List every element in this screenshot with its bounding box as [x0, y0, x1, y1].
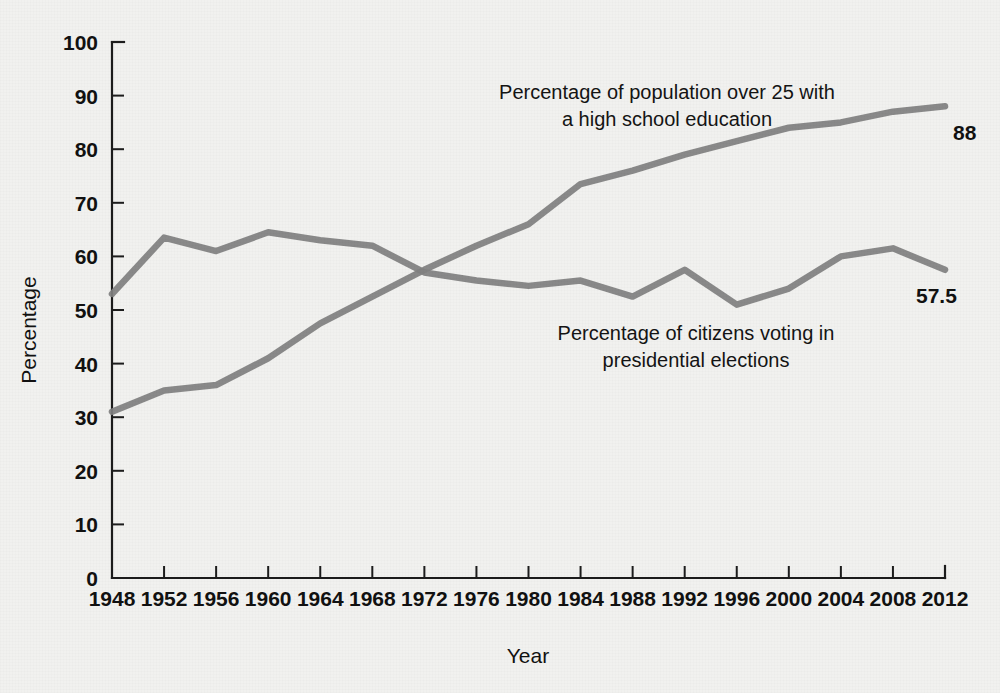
line-chart: 0102030405060708090100 19481952195619601… — [0, 0, 1000, 693]
y-axis-tick-labels: 0102030405060708090100 — [63, 31, 98, 590]
x-tick-label-1968: 1968 — [349, 587, 396, 610]
chart-page: 0102030405060708090100 19481952195619601… — [0, 0, 1000, 693]
voting-line — [112, 232, 945, 304]
data-series-group — [112, 106, 945, 412]
x-tick-label-2000: 2000 — [765, 587, 812, 610]
y-tick-label-90: 90 — [75, 85, 98, 108]
y-tick-label-80: 80 — [75, 138, 98, 161]
x-tick-label-1976: 1976 — [453, 587, 500, 610]
education-annotation: Percentage of population over 25 with a … — [499, 81, 835, 130]
education-annotation-line2: a high school education — [562, 108, 772, 130]
x-tick-label-1984: 1984 — [557, 587, 604, 610]
voting-annotation-line1: Percentage of citizens voting in — [558, 322, 835, 344]
y-axis-ticks — [112, 42, 124, 578]
x-axis-ticks — [164, 566, 945, 578]
x-tick-label-1964: 1964 — [297, 587, 344, 610]
y-tick-label-50: 50 — [75, 299, 98, 322]
x-tick-label-1956: 1956 — [193, 587, 240, 610]
y-axis-title: Percentage — [17, 276, 40, 383]
x-axis-title: Year — [507, 644, 549, 667]
x-tick-label-1992: 1992 — [661, 587, 708, 610]
education-line — [112, 106, 945, 412]
x-tick-label-2004: 2004 — [818, 587, 865, 610]
x-tick-label-1988: 1988 — [609, 587, 656, 610]
x-tick-label-2012: 2012 — [922, 587, 969, 610]
x-tick-label-1972: 1972 — [401, 587, 448, 610]
voting-endpoint-label: 57.5 — [916, 284, 957, 307]
y-tick-label-30: 30 — [75, 406, 98, 429]
y-tick-label-100: 100 — [63, 31, 98, 54]
voting-annotation: Percentage of citizens voting in preside… — [558, 322, 835, 371]
x-axis-tick-labels: 1948195219561960196419681972197619801984… — [89, 587, 969, 610]
x-tick-label-1960: 1960 — [245, 587, 292, 610]
y-tick-label-40: 40 — [75, 353, 98, 376]
x-tick-label-1948: 1948 — [89, 587, 136, 610]
y-tick-label-10: 10 — [75, 513, 98, 536]
y-tick-label-20: 20 — [75, 460, 98, 483]
education-annotation-line1: Percentage of population over 25 with — [499, 81, 835, 103]
x-tick-label-1952: 1952 — [141, 587, 188, 610]
voting-annotation-line2: presidential elections — [603, 349, 790, 371]
education-endpoint-label: 88 — [953, 121, 977, 144]
x-tick-label-2008: 2008 — [870, 587, 917, 610]
y-tick-label-60: 60 — [75, 245, 98, 268]
x-tick-label-1980: 1980 — [505, 587, 552, 610]
y-tick-label-70: 70 — [75, 192, 98, 215]
x-tick-label-1996: 1996 — [713, 587, 760, 610]
